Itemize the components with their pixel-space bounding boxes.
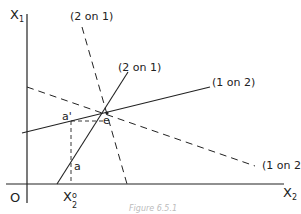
curve-2on1-solid bbox=[57, 72, 128, 184]
point-a-prime-label: a' bbox=[62, 111, 72, 122]
label-2on1-solid: (2 on 1) bbox=[118, 62, 161, 73]
point-a-label: a bbox=[74, 161, 81, 172]
origin-label: O bbox=[10, 191, 20, 204]
curve-2on1-dashed bbox=[82, 27, 127, 184]
y-axis-label-sub: 1 bbox=[19, 15, 24, 24]
figure-caption: Figure 6.5.1 bbox=[129, 204, 177, 213]
x-axis-label-sub: 2 bbox=[292, 193, 297, 202]
x2-zero-base: X bbox=[63, 189, 72, 204]
x-axis-label: X2 bbox=[283, 186, 297, 202]
y-axis-label: X1 bbox=[10, 8, 24, 24]
label-1on2-dashed: (1 on 2) bbox=[262, 160, 301, 171]
curve-1on2-dashed bbox=[27, 87, 255, 166]
reaction-curve-diagram bbox=[0, 0, 301, 214]
curve-1on2-solid bbox=[22, 87, 210, 133]
label-2on1-dashed: (2 on 1) bbox=[70, 11, 113, 22]
x2-zero-sup: o bbox=[72, 192, 77, 200]
x2-zero-label: Xo2 bbox=[63, 190, 80, 203]
x2-zero-sub: 2 bbox=[72, 202, 77, 210]
x-axis-label-text: X bbox=[283, 185, 292, 200]
y-axis-label-text: X bbox=[10, 7, 19, 22]
point-e-label: e bbox=[103, 115, 110, 126]
label-1on2-solid: (1 on 2) bbox=[212, 77, 255, 88]
